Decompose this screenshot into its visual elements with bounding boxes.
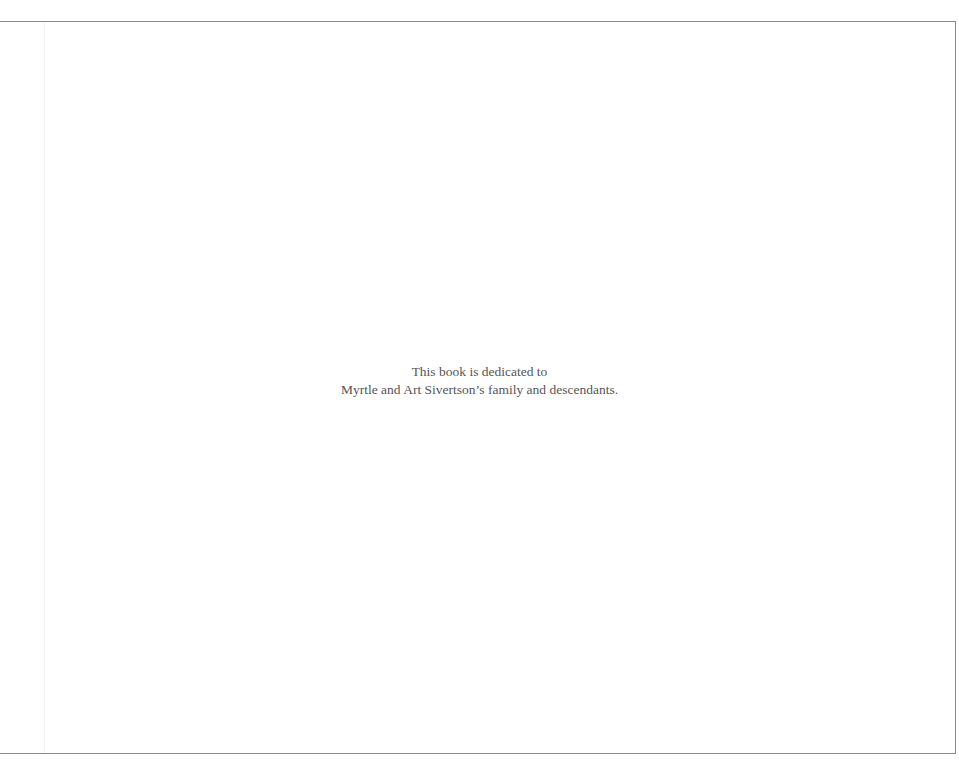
dedication-line-2: Myrtle and Art Sivertson’s family and de… (0, 381, 959, 399)
document-page: This book is dedicated to Myrtle and Art… (0, 0, 959, 769)
bottom-border-line (0, 753, 956, 754)
dedication-text: This book is dedicated to Myrtle and Art… (0, 363, 959, 399)
top-border-line (0, 21, 956, 22)
dedication-line-1: This book is dedicated to (0, 363, 959, 381)
